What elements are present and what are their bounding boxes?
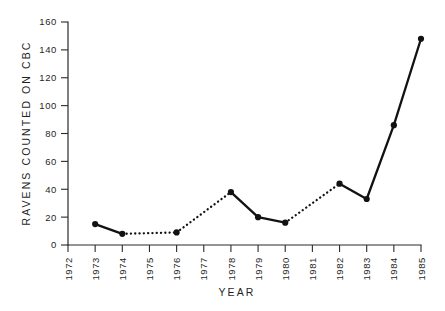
y-axis-title: RAVENS COUNTED ON CBC: [20, 40, 32, 225]
data-point-marker: [228, 189, 234, 195]
data-point-marker: [391, 122, 397, 128]
series-segment-solid: [231, 192, 258, 217]
y-tick-label: 80: [45, 128, 57, 139]
y-tick-label: 40: [45, 184, 57, 195]
y-tick-label: 60: [45, 156, 57, 167]
y-tick-label: 20: [45, 212, 57, 223]
x-tick-label: 1977: [198, 257, 209, 281]
series-segment-solid: [394, 39, 421, 125]
x-tick-label: 1976: [171, 257, 182, 281]
data-point-marker: [418, 36, 424, 42]
x-tick-label: 1975: [144, 257, 155, 281]
data-point-marker: [174, 229, 180, 235]
series-segment-solid: [95, 224, 122, 234]
data-series-lines: [95, 39, 421, 234]
series-segment-solid: [258, 217, 285, 223]
data-point-marker: [255, 214, 261, 220]
y-axis: 020406080100120140160 RAVENS COUNTED ON …: [20, 16, 68, 250]
data-point-marker: [364, 196, 370, 202]
y-tick-label: 120: [39, 72, 57, 83]
x-tick-label: 1985: [416, 257, 427, 281]
y-tick-label: 140: [39, 44, 57, 55]
x-axis: 1972197319741975197619771978197919801981…: [63, 245, 427, 298]
x-tick-label: 1983: [361, 257, 372, 281]
data-point-marker: [92, 221, 98, 227]
x-tick-label: 1981: [307, 257, 318, 281]
series-segment-dotted: [177, 192, 231, 232]
line-chart-canvas: 020406080100120140160 RAVENS COUNTED ON …: [0, 0, 445, 311]
x-tick-label: 1978: [226, 257, 237, 281]
data-point-marker: [336, 181, 342, 187]
y-tick-label: 160: [39, 16, 57, 27]
y-tick-label: 0: [51, 239, 57, 250]
x-axis-title: YEAR: [219, 286, 256, 298]
y-tick-label: 100: [39, 100, 57, 111]
x-tick-label: 1974: [117, 257, 128, 281]
x-axis-ticks: 1972197319741975197619771978197919801981…: [63, 245, 427, 281]
y-axis-ticks: 020406080100120140160: [39, 16, 68, 250]
data-series-markers: [92, 36, 424, 237]
x-tick-label: 1980: [280, 257, 291, 281]
series-segment-solid: [340, 184, 367, 199]
x-tick-label: 1979: [253, 257, 264, 281]
series-segment-dotted: [122, 232, 176, 233]
x-tick-label: 1984: [388, 257, 399, 281]
data-point-marker: [282, 220, 288, 226]
x-tick-label: 1973: [90, 257, 101, 281]
data-point-marker: [119, 231, 125, 237]
series-segment-dotted: [285, 184, 339, 223]
series-segment-solid: [367, 125, 394, 199]
chart-figure: 020406080100120140160 RAVENS COUNTED ON …: [0, 0, 445, 311]
x-tick-label: 1972: [63, 257, 74, 281]
x-tick-label: 1982: [334, 257, 345, 281]
